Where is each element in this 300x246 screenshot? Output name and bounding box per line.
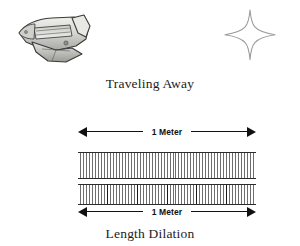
ruler-tick bbox=[253, 185, 256, 204]
arrow-head-right-icon bbox=[247, 207, 256, 217]
measure-label-bottom: 1 Meter bbox=[145, 207, 189, 217]
measure-bar-bottom: 1 Meter bbox=[78, 204, 256, 220]
measure-label-top: 1 Meter bbox=[145, 127, 189, 137]
moving-ruler bbox=[78, 184, 256, 205]
observer-ruler bbox=[78, 152, 256, 179]
arrow-head-right-icon bbox=[247, 127, 256, 137]
ruler-tick bbox=[253, 153, 256, 178]
arrow-line bbox=[191, 211, 249, 212]
arrow-left-bottom bbox=[78, 205, 145, 219]
length-dilation-panel: 1 Meter 1 Meter Length Dilation bbox=[0, 118, 300, 246]
space-shuttle-icon bbox=[12, 6, 98, 66]
measure-bar-top: 1 Meter bbox=[78, 124, 256, 140]
length-dilation-caption: Length Dilation bbox=[0, 226, 300, 242]
four-point-star-icon bbox=[222, 8, 278, 62]
traveling-away-caption: Traveling Away bbox=[0, 76, 300, 92]
arrow-line bbox=[85, 131, 143, 132]
figure-canvas: Traveling Away 1 Meter 1 Meter bbox=[0, 0, 300, 246]
arrow-right-top bbox=[189, 125, 256, 139]
arrow-right-bottom bbox=[189, 205, 256, 219]
arrow-line bbox=[85, 211, 143, 212]
arrow-left-top bbox=[78, 125, 145, 139]
arrow-line bbox=[191, 131, 249, 132]
